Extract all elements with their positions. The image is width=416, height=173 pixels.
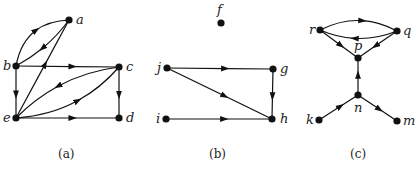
edge-k-to-n bbox=[319, 106, 340, 120]
edge-r-to-p bbox=[320, 30, 341, 45]
node-h bbox=[268, 115, 275, 122]
edge-r-to-q bbox=[320, 20, 362, 30]
edges-layer bbox=[16, 20, 397, 121]
node-c bbox=[115, 63, 122, 70]
node-e bbox=[12, 114, 19, 121]
graph-diagram: abcdefghijrqpnkm (a) (b) (c) bbox=[0, 0, 416, 173]
node-label-e: e bbox=[3, 110, 11, 125]
edge-e-to-a bbox=[16, 64, 45, 118]
node-label-g: g bbox=[280, 61, 288, 76]
edge-c-to-e-tail bbox=[16, 86, 58, 118]
node-label-j: j bbox=[154, 60, 161, 75]
caption-a: (a) bbox=[58, 147, 75, 161]
caption-c: (c) bbox=[350, 147, 366, 161]
edge-q-to-p bbox=[376, 31, 397, 46]
node-label-m: m bbox=[403, 113, 415, 128]
edge-r-to-q-tail bbox=[362, 21, 397, 31]
edge-b-to-c bbox=[16, 66, 73, 67]
edge-e-to-c-tail bbox=[78, 67, 119, 101]
node-q bbox=[393, 27, 400, 34]
node-label-n: n bbox=[354, 100, 362, 115]
caption-b: (b) bbox=[209, 147, 226, 161]
node-m bbox=[393, 117, 400, 124]
node-label-c: c bbox=[126, 59, 134, 74]
node-j bbox=[163, 64, 170, 71]
node-a bbox=[65, 16, 72, 23]
edge-j-to-g bbox=[167, 68, 225, 69]
node-label-b: b bbox=[3, 58, 11, 73]
node-label-a: a bbox=[76, 12, 84, 27]
node-p bbox=[354, 54, 361, 61]
node-i bbox=[162, 115, 169, 122]
node-label-i: i bbox=[156, 111, 160, 126]
node-r bbox=[316, 26, 323, 33]
node-label-p: p bbox=[354, 38, 363, 53]
node-f bbox=[217, 19, 224, 26]
node-label-h: h bbox=[280, 111, 288, 126]
node-d bbox=[115, 114, 122, 121]
node-k bbox=[315, 116, 322, 123]
node-b bbox=[12, 62, 19, 69]
edge-j-to-h bbox=[167, 68, 225, 96]
nodes-layer bbox=[12, 16, 400, 124]
node-label-f: f bbox=[216, 2, 224, 17]
node-label-q: q bbox=[403, 23, 411, 38]
node-label-k: k bbox=[306, 112, 314, 127]
node-n bbox=[354, 91, 361, 98]
node-g bbox=[269, 65, 276, 72]
edge-g-to-h bbox=[272, 69, 273, 97]
edge-j-to-h-tail bbox=[225, 96, 272, 119]
node-label-d: d bbox=[126, 110, 134, 125]
node-label-r: r bbox=[309, 22, 316, 37]
